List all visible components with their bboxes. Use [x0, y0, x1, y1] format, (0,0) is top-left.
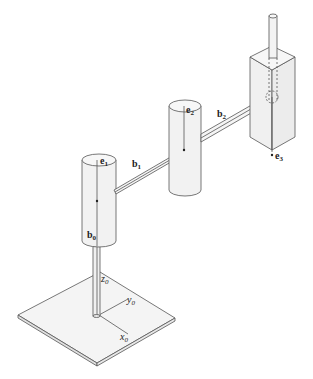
- e3-point: [271, 154, 273, 156]
- base-pole: [93, 246, 100, 318]
- joint-1-point: [96, 200, 98, 202]
- prismatic-joint-box: [250, 46, 295, 152]
- label-b1: b1: [132, 158, 142, 171]
- diagram-svg: e1 b1 e2 b2 e3 b0 z0 y0 x0: [0, 0, 313, 379]
- joint-2-cylinder: [169, 100, 201, 196]
- prismatic-rod: [269, 14, 277, 58]
- joint-2-point: [183, 149, 185, 151]
- label-e3: e3: [275, 150, 283, 163]
- label-b2: b2: [217, 108, 227, 121]
- manipulator-diagram: e1 b1 e2 b2 e3 b0 z0 y0 x0: [0, 0, 313, 379]
